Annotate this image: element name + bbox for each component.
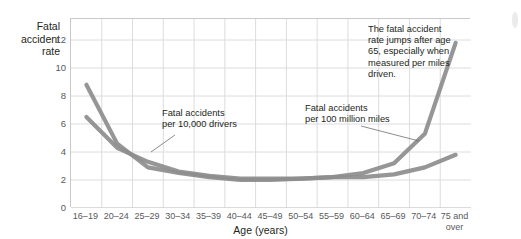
y-tick-12: 12 [48, 35, 66, 45]
annotation-jump-line-3: 65, especially when [368, 46, 486, 57]
y-axis-tick-labels: 0 2 4 6 8 10 12 [46, 0, 66, 239]
annotation-age-jump: The fatal accident rate jumps after age … [368, 24, 486, 80]
annotation-drivers-line-2: per 10,000 drivers [162, 119, 272, 130]
y-tick-8: 8 [48, 91, 66, 101]
annotation-jump-line-2: rate jumps after age [368, 35, 486, 46]
leader-miles [361, 126, 419, 141]
annotation-jump-line-4: measured per miles [368, 58, 486, 69]
x-tick-12-line-0: 75 and [431, 211, 479, 222]
annotation-miles: Fatal accidents per 100 million miles [305, 103, 425, 125]
annotation-miles-line-1: Fatal accidents [305, 103, 425, 114]
fatal-accident-rate-chart: Fatal accident rate 0 2 4 6 8 10 12 16–1… [0, 0, 521, 239]
y-tick-2: 2 [48, 175, 66, 185]
y-tick-6: 6 [48, 119, 66, 129]
annotation-miles-line-2: per 100 million miles [305, 114, 425, 125]
y-tick-4: 4 [48, 147, 66, 157]
annotation-drivers-line-1: Fatal accidents [162, 108, 272, 119]
annotation-jump-line-1: The fatal accident [368, 24, 486, 35]
y-tick-10: 10 [48, 63, 66, 73]
annotation-jump-line-5: driven. [368, 69, 486, 80]
page-edge-artifact [512, 12, 518, 28]
x-axis-title: Age (years) [0, 224, 521, 236]
annotation-drivers: Fatal accidents per 10,000 drivers [162, 108, 272, 130]
